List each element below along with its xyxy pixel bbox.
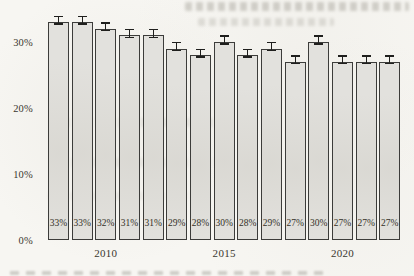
bar-value-label: 27% [286, 218, 305, 228]
bar: 29% [166, 49, 187, 240]
error-bar [196, 49, 205, 58]
error-bar [78, 16, 87, 25]
bar-value-label: 33% [49, 218, 68, 228]
bar: 27% [379, 62, 400, 240]
x-tick-label: 2015 [213, 247, 236, 259]
bar-value-label: 29% [167, 218, 186, 228]
bar-value-label: 28% [238, 218, 257, 228]
y-tick-label: 20% [13, 103, 33, 114]
bar: 27% [285, 62, 306, 240]
bar: 33% [72, 22, 93, 240]
bar-value-label: 31% [120, 218, 139, 228]
error-bar [220, 35, 229, 44]
bar-chart: 0%10%20%30% 33%33%32%31%31%29%28%30%28%2… [0, 0, 414, 276]
error-bar [291, 55, 300, 64]
scanned-figure-page: 0%10%20%30% 33%33%32%31%31%29%28%30%28%2… [0, 0, 414, 276]
bar: 32% [95, 29, 116, 240]
error-bar [362, 55, 371, 64]
bar-value-label: 27% [333, 218, 352, 228]
bar: 27% [332, 62, 353, 240]
bar-value-label: 30% [309, 218, 328, 228]
y-tick-label: 0% [19, 235, 33, 246]
error-bar [243, 49, 252, 58]
error-bar [101, 22, 110, 31]
bar: 31% [143, 35, 164, 240]
bar-value-label: 30% [215, 218, 234, 228]
bar-value-label: 27% [380, 218, 399, 228]
bar-value-label: 32% [96, 218, 115, 228]
error-bar [125, 29, 134, 38]
bar: 33% [48, 22, 69, 240]
bar: 28% [237, 55, 258, 240]
error-bar [338, 55, 347, 64]
y-tick-label: 30% [13, 37, 33, 48]
bar: 28% [190, 55, 211, 240]
bar: 30% [214, 42, 235, 240]
bar-value-label: 31% [144, 218, 163, 228]
bar-value-label: 28% [191, 218, 210, 228]
bar: 27% [356, 62, 377, 240]
y-tick-label: 10% [13, 169, 33, 180]
error-bar [385, 55, 394, 64]
error-bar [314, 35, 323, 44]
error-bar [54, 16, 63, 25]
x-tick-label: 2020 [331, 247, 354, 259]
bar: 31% [119, 35, 140, 240]
error-bar [172, 42, 181, 51]
error-bar [149, 29, 158, 38]
error-bar [267, 42, 276, 51]
bar-value-label: 33% [73, 218, 92, 228]
x-tick-label: 2010 [94, 247, 117, 259]
bar: 30% [308, 42, 329, 240]
bar-value-label: 27% [357, 218, 376, 228]
bar-value-label: 29% [262, 218, 281, 228]
cropped-caption-artifact [10, 271, 328, 275]
bar: 29% [261, 49, 282, 240]
